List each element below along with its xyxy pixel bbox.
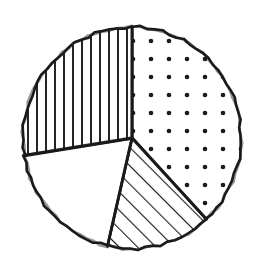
pie-chart-figure <box>0 0 264 264</box>
pie-chart-svg <box>0 0 264 264</box>
